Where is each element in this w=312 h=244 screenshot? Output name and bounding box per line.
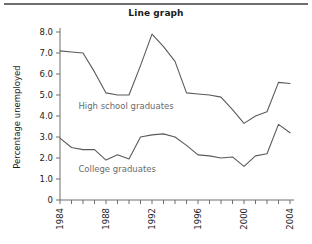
x-tick-label: 1988 <box>101 208 111 230</box>
x-tick-label: 2000 <box>239 208 249 230</box>
y-tick-label: 6.0 <box>39 69 53 79</box>
y-tick-label: 2.0 <box>39 153 53 163</box>
x-tick-label: 1984 <box>55 208 65 230</box>
y-axis-ticks: 01.02.03.04.05.06.07.08.0 <box>39 27 60 205</box>
y-tick-label: 8.0 <box>39 27 53 37</box>
y-tick-label: 4.0 <box>39 111 53 121</box>
x-tick-label: 2004 <box>285 208 295 230</box>
y-tick-label: 7.0 <box>39 48 53 58</box>
y-tick-label: 3.0 <box>39 132 53 142</box>
page-footer-fragment <box>6 236 306 244</box>
series-line <box>60 124 290 166</box>
chart-series-labels: High school graduatesCollege graduates <box>78 101 174 174</box>
x-tick-label: 1992 <box>147 208 157 230</box>
line-graph-figure: Line graph Percentage unemployed 01.02.0… <box>0 0 312 244</box>
series-label: High school graduates <box>78 101 174 111</box>
y-tick-label: 5.0 <box>39 90 53 100</box>
y-tick-label: 1.0 <box>39 174 53 184</box>
x-axis-ticks: 198419881992199620002004 <box>55 200 295 230</box>
chart-axes <box>60 28 294 200</box>
x-tick-label: 1996 <box>193 208 203 230</box>
y-tick-label: 0 <box>48 195 53 205</box>
chart-plot-area: 01.02.03.04.05.06.07.08.0 19841988199219… <box>0 0 312 244</box>
series-label: College graduates <box>78 164 156 174</box>
